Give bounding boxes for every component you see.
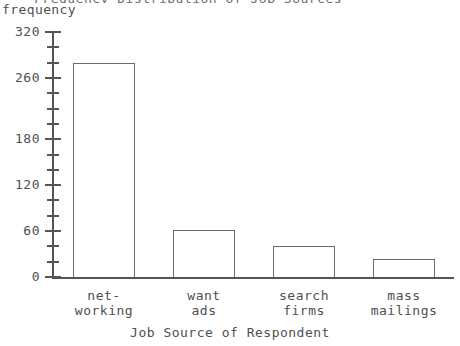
x-axis-line bbox=[52, 277, 454, 279]
x-category-label: mass mailings bbox=[354, 288, 454, 318]
y-tick-label: 260 bbox=[0, 71, 40, 84]
y-tick-major bbox=[45, 276, 61, 278]
y-tick-minor bbox=[47, 199, 59, 201]
y-tick-label: 320 bbox=[0, 25, 40, 38]
y-tick-label: 60 bbox=[0, 224, 40, 237]
plot-area: 060120180260320 net- workingwant adssear… bbox=[0, 0, 460, 346]
y-tick-minor bbox=[47, 215, 59, 217]
y-tick-label: 180 bbox=[0, 132, 40, 145]
x-axis-title: Job Source of Respondent bbox=[0, 325, 460, 340]
y-tick-minor bbox=[47, 46, 59, 48]
y-tick-minor bbox=[47, 169, 59, 171]
y-tick-minor bbox=[47, 108, 59, 110]
y-tick-label: 120 bbox=[0, 178, 40, 191]
bar bbox=[373, 259, 435, 277]
x-category-label: want ads bbox=[154, 288, 254, 318]
y-tick-minor bbox=[47, 92, 59, 94]
bar-chart-figure: Frequency Distribution of Job Sources fr… bbox=[0, 0, 460, 346]
bar bbox=[273, 246, 335, 277]
y-tick-major bbox=[45, 138, 61, 140]
y-tick-major bbox=[45, 77, 61, 79]
y-tick-major bbox=[45, 31, 61, 33]
y-tick-minor bbox=[47, 245, 59, 247]
y-tick-minor bbox=[47, 62, 59, 64]
y-tick-label: 0 bbox=[0, 270, 40, 283]
bar bbox=[73, 63, 135, 277]
bar bbox=[173, 230, 235, 277]
y-tick-minor bbox=[47, 154, 59, 156]
y-tick-major bbox=[45, 184, 61, 186]
y-tick-minor bbox=[47, 261, 59, 263]
y-tick-major bbox=[45, 230, 61, 232]
y-tick-minor bbox=[47, 123, 59, 125]
x-category-label: search firms bbox=[254, 288, 354, 318]
x-category-label: net- working bbox=[54, 288, 154, 318]
